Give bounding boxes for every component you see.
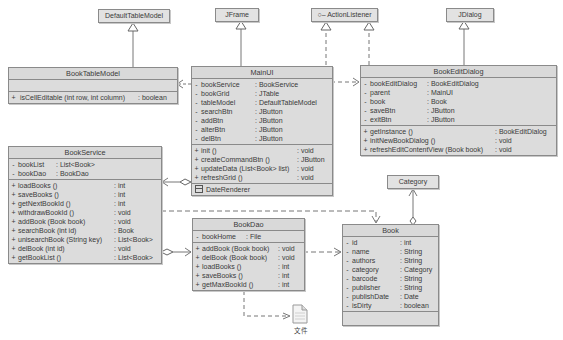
attribute-row: -searchBtn: JButton bbox=[192, 107, 332, 116]
method-type: : Book bbox=[114, 226, 134, 235]
visibility: + bbox=[9, 190, 18, 199]
attribute-row: -delBtn: JButton bbox=[192, 134, 332, 143]
inner-class-icon bbox=[195, 185, 203, 193]
attribute-name: addBtn bbox=[201, 116, 255, 125]
method-name: unisearchBook (String key) bbox=[18, 235, 114, 244]
attribute-row: -isDirty: boolean bbox=[343, 301, 438, 310]
attribute-row: -authors: String bbox=[343, 256, 438, 265]
method-type: : int bbox=[278, 262, 289, 271]
method-type: : void bbox=[114, 217, 131, 226]
attribute-type: : JButton bbox=[255, 134, 283, 143]
attribute-name: saveBtn bbox=[370, 106, 427, 115]
attribute-type: : JButton bbox=[427, 106, 455, 115]
visibility: - bbox=[343, 265, 352, 274]
class-name: Book bbox=[343, 225, 438, 237]
attribute-type: : String bbox=[400, 274, 422, 283]
method-row: +refreshEditContentView (Book book): voi… bbox=[361, 145, 556, 154]
attribute-row: -id: int bbox=[343, 238, 438, 247]
method-row: +addBook (Book book): void bbox=[9, 217, 161, 226]
method-type: : int bbox=[114, 190, 125, 199]
methods-section bbox=[343, 312, 438, 325]
method-name: addBook (Book book) bbox=[18, 217, 114, 226]
attribute-row: -parent: MainUI bbox=[361, 88, 556, 97]
method-row: + isCellEditable (int row, int column) :… bbox=[9, 93, 177, 102]
method-type: : void bbox=[495, 145, 512, 154]
attributes-section: -bookService: BookService -bookGrid: JTa… bbox=[192, 79, 332, 145]
visibility: + bbox=[361, 136, 370, 145]
method-name: delBook (Book book) bbox=[202, 253, 278, 262]
method-type: : JButton bbox=[297, 155, 325, 164]
attribute-type: : BookEditDialog bbox=[427, 79, 479, 88]
attribute-type: : boolean bbox=[400, 301, 429, 310]
attribute-row: -bookEditDialog: BookEditDialog bbox=[361, 79, 556, 88]
attribute-type: : Book bbox=[427, 97, 447, 106]
method-name: getInstance () bbox=[370, 127, 495, 136]
method-row: +getNextBookId (): int bbox=[9, 199, 161, 208]
class-name: BookEditDialog bbox=[361, 66, 556, 78]
attribute-name: bookGrid bbox=[201, 89, 255, 98]
method-name: saveBooks () bbox=[18, 190, 114, 199]
visibility: + bbox=[9, 208, 18, 217]
method-row: +createCommandBtn (): JButton bbox=[192, 155, 332, 164]
visibility: + bbox=[9, 235, 18, 244]
visibility: - bbox=[9, 169, 18, 178]
attribute-name: bookService bbox=[201, 80, 255, 89]
visibility: - bbox=[361, 106, 370, 115]
visibility: + bbox=[193, 244, 202, 253]
attribute-row: -bookDao: BookDao bbox=[9, 169, 161, 178]
attribute-name: publishDate bbox=[352, 292, 400, 301]
attribute-name: alterBtn bbox=[201, 125, 255, 134]
attribute-type: : File bbox=[246, 232, 261, 241]
visibility: + bbox=[361, 145, 370, 154]
visibility: + bbox=[9, 217, 18, 226]
method-name: getNextBookId () bbox=[18, 199, 114, 208]
visibility: + bbox=[192, 173, 201, 182]
visibility: + bbox=[192, 164, 201, 173]
attribute-type: : DefaultTableModel bbox=[255, 98, 317, 107]
visibility: + bbox=[192, 146, 201, 155]
method-type: : void bbox=[114, 208, 131, 217]
visibility: - bbox=[361, 97, 370, 106]
visibility: - bbox=[343, 283, 352, 292]
attribute-name: delBtn bbox=[201, 134, 255, 143]
attributes-section: -id: int -name: String -authors: String … bbox=[343, 237, 438, 312]
attribute-row: -saveBtn: JButton bbox=[361, 106, 556, 115]
methods-section: +loadBooks (): int +saveBooks (): int +g… bbox=[9, 180, 161, 263]
attribute-type: : JButton bbox=[427, 115, 455, 124]
visibility: - bbox=[192, 125, 201, 134]
method-type: : int bbox=[114, 199, 125, 208]
visibility: + bbox=[192, 155, 201, 164]
method-type: : void bbox=[297, 173, 314, 182]
visibility: - bbox=[361, 79, 370, 88]
visibility: - bbox=[192, 89, 201, 98]
attribute-type: : JButton bbox=[255, 125, 283, 134]
class-jframe: JFrame bbox=[215, 8, 259, 22]
attribute-row: -book: Book bbox=[361, 97, 556, 106]
class-book-dao: BookDao -bookHome: File +addBook (Book b… bbox=[192, 218, 305, 291]
attribute-type: : String bbox=[400, 247, 422, 256]
attribute-row: -addBtn: JButton bbox=[192, 116, 332, 125]
method-row: +getInstance (): BookEditDialog bbox=[361, 127, 556, 136]
attribute-name: parent bbox=[370, 88, 427, 97]
attribute-type: : JButton bbox=[255, 107, 283, 116]
attribute-row: -exitBtn: JButton bbox=[361, 115, 556, 124]
visibility: - bbox=[343, 301, 352, 310]
attribute-type: : BookDao bbox=[56, 169, 89, 178]
method-name: searchBook (int id) bbox=[18, 226, 114, 235]
method-type: : void bbox=[278, 244, 295, 253]
method-row: +getMaxBookId (): int bbox=[193, 280, 304, 289]
method-name: getMaxBookId () bbox=[202, 280, 278, 289]
method-type: : List<Book> bbox=[114, 253, 153, 262]
method-type: : BookEditDialog bbox=[495, 127, 547, 136]
method-name: refreshEditContentView (Book book) bbox=[370, 145, 495, 154]
visibility: + bbox=[193, 280, 202, 289]
attribute-row: -bookHome: File bbox=[193, 232, 304, 241]
interface-action-listener: ○– ActionListener bbox=[311, 8, 378, 22]
method-row: +delBook (Book book): void bbox=[193, 253, 304, 262]
method-type: : void bbox=[297, 146, 314, 155]
attribute-type: : Category bbox=[400, 265, 432, 274]
attribute-name: category bbox=[352, 265, 400, 274]
attribute-type: : JTable bbox=[255, 89, 279, 98]
visibility: + bbox=[9, 226, 18, 235]
attribute-type: : Date bbox=[400, 292, 419, 301]
